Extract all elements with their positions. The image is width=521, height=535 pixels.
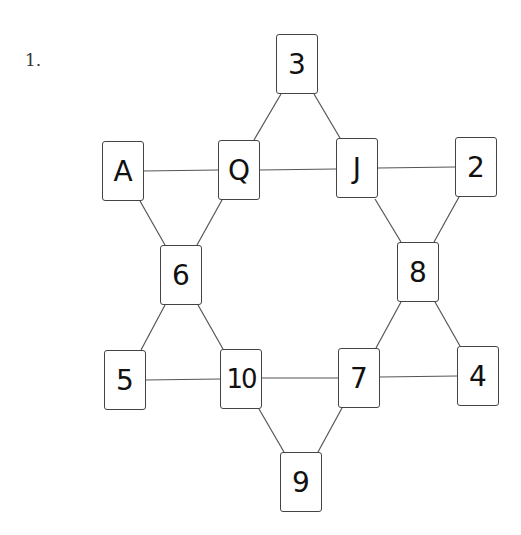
edge-5-10 <box>145 379 220 380</box>
card-a: A <box>102 141 144 201</box>
edge-7-9 <box>318 408 342 452</box>
card-2: 2 <box>455 137 497 197</box>
card-9: 9 <box>280 452 322 512</box>
card-4: 4 <box>457 346 499 406</box>
edge-6-10 <box>198 305 223 349</box>
card-10: 10 <box>220 349 262 409</box>
card-6: 6 <box>160 245 202 305</box>
card-5: 5 <box>104 350 146 410</box>
edge-3-q <box>254 94 281 140</box>
edge-10-9 <box>259 409 284 452</box>
edge-j-2 <box>378 167 455 168</box>
card-3: 3 <box>276 34 318 94</box>
edge-j-8 <box>375 199 401 242</box>
card-q: Q <box>218 140 260 200</box>
edge-2-8 <box>434 197 459 242</box>
edge-8-4 <box>435 302 460 346</box>
connection-lines <box>0 0 521 535</box>
edge-a-q <box>143 170 218 171</box>
edge-3-j <box>314 94 340 138</box>
card-j: J <box>336 138 378 198</box>
edge-7-4 <box>380 376 457 377</box>
edge-8-7 <box>376 302 401 348</box>
card-8: 8 <box>397 242 439 302</box>
edge-q-6 <box>197 200 222 245</box>
edge-a-6 <box>140 201 165 245</box>
card-7: 7 <box>338 348 380 408</box>
edge-6-5 <box>141 305 165 350</box>
edge-q-j <box>259 169 336 170</box>
